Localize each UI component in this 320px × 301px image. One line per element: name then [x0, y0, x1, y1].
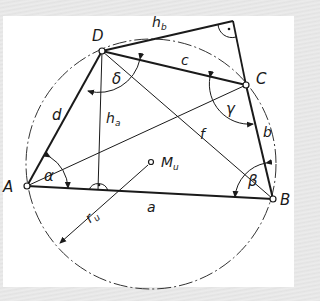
- vertex-B-point: [270, 196, 276, 202]
- height-hb-top: [102, 21, 233, 51]
- label-alpha: α: [44, 167, 54, 185]
- label-Mu: Mu: [161, 154, 179, 172]
- label-ru: ru: [82, 206, 103, 227]
- label-beta: β: [247, 172, 258, 190]
- vertex-C-point: [243, 82, 249, 88]
- label-B: B: [280, 191, 290, 209]
- right-angle-dot-ha: [98, 184, 101, 187]
- vertex-D-point: [99, 48, 105, 54]
- label-diagonal-f: f: [200, 126, 207, 142]
- side-d: [27, 51, 102, 186]
- vertex-A-point: [24, 183, 30, 189]
- height-ha: [98, 51, 102, 190]
- label-side-b: b: [263, 124, 272, 140]
- label-gamma: γ: [226, 100, 236, 118]
- radius-ru: [60, 165, 148, 243]
- label-hb: hb: [152, 14, 167, 32]
- label-ha: ha: [106, 110, 120, 128]
- label-C: C: [256, 70, 267, 88]
- label-D: D: [92, 27, 104, 45]
- center-Mu-point: [149, 160, 154, 165]
- label-side-c: c: [181, 52, 189, 68]
- label-side-d: d: [52, 106, 62, 124]
- label-side-a: a: [147, 199, 156, 215]
- label-A: A: [2, 178, 13, 196]
- quadrilateral-diagram: A B C D a b c d f ha hb α β γ δ Mu ru: [0, 0, 294, 301]
- right-angle-dot-hb: [228, 28, 231, 31]
- side-c: [102, 51, 246, 85]
- label-delta: δ: [112, 70, 121, 88]
